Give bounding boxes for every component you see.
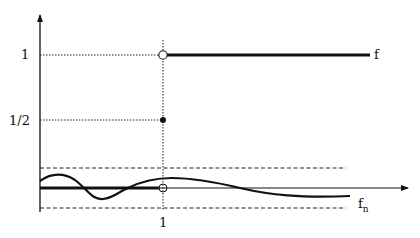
x-tick-label-1: 1 <box>159 216 167 229</box>
y-tick-label-half: 1/2 <box>9 114 30 127</box>
open-circle-marker-f-at-1 <box>159 51 167 59</box>
filled-circle-marker-half <box>160 117 166 123</box>
curve-label-fn: fn <box>358 197 369 214</box>
fn-label-subscript: n <box>363 204 369 214</box>
plot-svg <box>0 0 420 238</box>
y-tick-label-1: 1 <box>21 48 29 61</box>
diagram-canvas: 1 1/2 1 f fn <box>0 0 420 238</box>
curve-label-f: f <box>374 48 379 61</box>
